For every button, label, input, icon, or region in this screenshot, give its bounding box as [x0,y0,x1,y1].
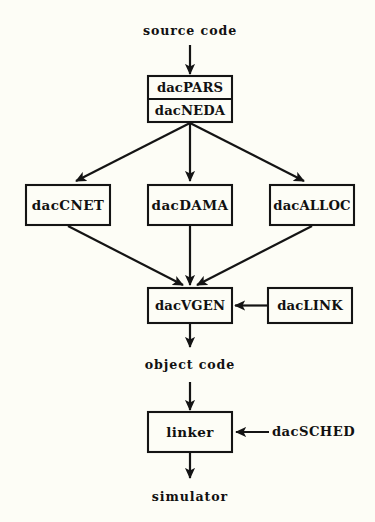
node-daclink-group: dacLINK [268,288,352,323]
node-label-dacneda: dacNEDA [155,103,226,118]
edge-daccnet-to-dacvgen [68,226,183,285]
node-dacvgen-group: dacVGEN [148,288,232,323]
io-label-simulator: simulator [152,489,228,504]
io-label-source-code: source code [143,23,237,38]
io-label-object-code: object code [145,357,235,372]
flowchart-diagram: source code dacPARS dacNEDA dacCNET dacD… [0,0,375,522]
edge-dacalloc-to-dacvgen [197,226,312,285]
node-label-linker: linker [166,424,214,440]
node-daccnet-group: dacCNET [26,185,110,225]
node-label-dacpars: dacPARS [157,80,223,95]
node-dacpars-dacneda-group: dacPARS dacNEDA [148,76,232,122]
node-label-dacalloc: dacALLOC [273,198,350,213]
node-label-dacsched: dacSCHED [272,424,355,439]
edge-dacneda-to-daccnet [76,123,190,181]
node-label-dacvgen: dacVGEN [155,298,225,313]
node-label-daclink: dacLINK [277,298,343,313]
node-linker-group: linker [148,412,232,452]
edge-dacneda-to-dacalloc [190,123,304,181]
flowchart-canvas: source code dacPARS dacNEDA dacCNET dacD… [0,0,375,522]
node-label-daccnet: dacCNET [32,197,105,213]
node-label-dacdama: dacDAMA [152,197,229,213]
node-dacalloc-group: dacALLOC [270,185,354,225]
node-dacdama-group: dacDAMA [148,185,232,225]
